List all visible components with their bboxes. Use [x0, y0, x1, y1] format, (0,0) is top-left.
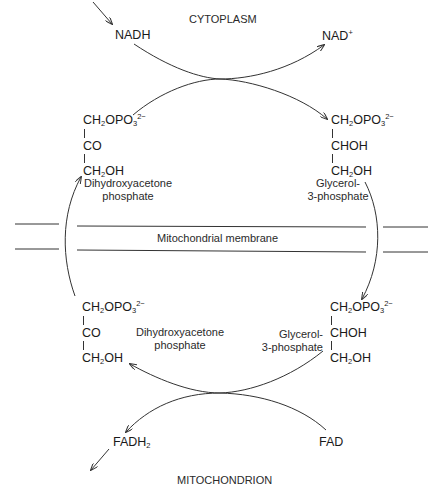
- dhap-row-1: CH2OPO32−: [82, 301, 145, 314]
- pathway-arrows: [0, 0, 439, 495]
- bond: [83, 341, 84, 350]
- bond: [83, 316, 84, 325]
- fad-label: FAD: [319, 436, 343, 449]
- g3p-row-1: CH2OPO32−: [330, 301, 393, 314]
- arrow-fad-to-fadh2: [126, 393, 326, 432]
- arrow-into-nadh: [93, 2, 112, 24]
- arrow-nadh-to-nad: [134, 44, 324, 79]
- bond: [84, 154, 85, 163]
- dhap-name-cytoplasm: Dihydroxyacetone phosphate: [78, 178, 178, 202]
- nadh-label: NADH: [115, 29, 150, 42]
- nad-plus-label: NAD+: [322, 30, 353, 43]
- membrane-label: Mitochondrial membrane: [157, 233, 278, 244]
- dhap-row-3: CH2OH: [82, 352, 145, 365]
- bond: [332, 129, 333, 138]
- mitochondrion-label: MITOCHONDRION: [177, 475, 272, 486]
- membrane-line-outer-center: [77, 226, 366, 227]
- dhap-row-2: CO: [83, 140, 146, 153]
- g3p-structure-mitochondrion: CH2OPO32− CHOH CH2OH: [330, 301, 393, 365]
- bond: [331, 341, 332, 350]
- dhap-structure-cytoplasm: CH2OPO32− CO CH2OH: [83, 114, 146, 178]
- g3p-row-2: CHOH: [331, 140, 394, 153]
- dhap-row-3: CH2OH: [83, 165, 146, 178]
- g3p-structure-cytoplasm: CH2OPO32− CHOH CH2OH: [331, 114, 394, 178]
- arrow-g3p-to-dhap: [130, 351, 323, 393]
- bond: [84, 129, 85, 138]
- g3p-row-1: CH2OPO32−: [331, 114, 394, 127]
- fadh2-label: FADH2: [113, 436, 151, 449]
- g3p-row-3: CH2OH: [331, 165, 394, 178]
- cytoplasm-label: CYTOPLASM: [189, 14, 257, 25]
- arrow-out-of-fadh2: [91, 449, 109, 470]
- g3p-row-3: CH2OH: [330, 352, 393, 365]
- bond: [332, 154, 333, 163]
- dhap-row-1: CH2OPO32−: [83, 114, 146, 127]
- g3p-name-cytoplasm: Glycerol- 3-phosphate: [301, 178, 375, 202]
- g3p-name-mitochondrion: Glycerol- 3-phosphate: [253, 329, 323, 353]
- arrow-dhap-to-g3p: [133, 79, 327, 119]
- bond: [331, 316, 332, 325]
- dhap-name-mitochondrion: Dihydroxyacetone phosphate: [132, 327, 228, 351]
- g3p-row-2: CHOH: [330, 327, 393, 340]
- membrane-line-inner-center: [77, 250, 366, 252]
